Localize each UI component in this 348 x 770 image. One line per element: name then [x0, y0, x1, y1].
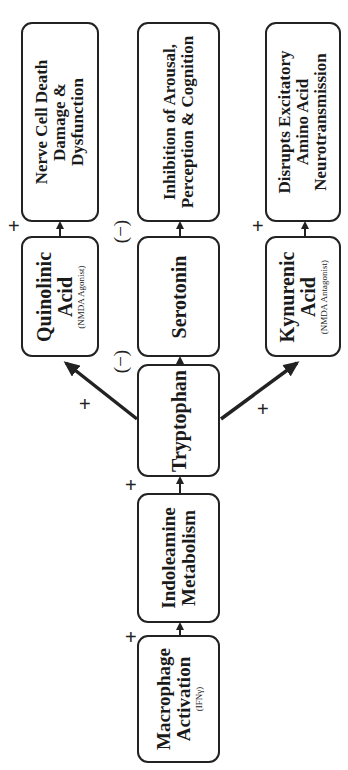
sign-plus-tryptophan-quinolinic: + [79, 394, 91, 414]
sign-plus-indoleamine-tryptophan: + [125, 475, 137, 495]
node-label: Indoleamine [159, 507, 179, 608]
node-macrophage-activation: Macrophage Activation (IFNγ) [137, 635, 220, 763]
node-label: Macrophage [153, 648, 173, 750]
sign-plus-tryptophan-kynurenic: + [257, 399, 269, 419]
node-label: Acid [298, 251, 319, 342]
node-indoleamine-metabolism: Indoleamine Metabolism [137, 493, 220, 623]
sign-plus-kynurenic-disrupts: + [252, 216, 264, 236]
node-label: Kynurenic [277, 251, 298, 342]
node-sublabel: (NMDA Agonist) [77, 251, 86, 341]
sign-plus-quinolinic-nervecell: + [8, 216, 20, 236]
node-label: Quinolinic [34, 251, 55, 341]
node-label: Damage & [51, 60, 69, 185]
node-label: Dysfunction [69, 60, 87, 185]
node-serotonin: Serotonin [137, 236, 220, 357]
sign-plus-macrophage-indoleamine: + [125, 627, 137, 647]
node-label: Perception & Cognition [179, 36, 197, 209]
node-sublabel: (IFNγ) [194, 648, 203, 750]
node-disrupts: Disrupts Excitatory Amino Acid Neurotran… [265, 22, 341, 222]
node-label: Acid [55, 251, 76, 341]
sign-minus-serotonin-inhibition: (−) [111, 220, 130, 243]
node-tryptophan: Tryptophan [137, 364, 220, 477]
sign-minus-tryptophan-serotonin: (−) [111, 350, 130, 373]
node-label: Nerve Cell Death [33, 60, 51, 185]
node-label: Disrupts Excitatory [276, 50, 294, 193]
node-label: Metabolism [179, 507, 199, 608]
node-nerve-cell-death: Nerve Cell Death Damage & Dysfunction [21, 22, 99, 222]
node-sublabel: (NMDA Antagonist) [320, 251, 329, 342]
node-label: Tryptophan [168, 370, 189, 472]
node-label: Amino Acid [294, 50, 312, 193]
node-quinolinic-acid: Quinolinic Acid (NMDA Agonist) [21, 236, 99, 357]
node-label: Inhibition of Arousal, [161, 36, 179, 209]
node-inhibition: Inhibition of Arousal, Perception & Cogn… [137, 22, 220, 222]
node-label: Activation [173, 648, 193, 750]
node-label: Serotonin [168, 255, 189, 338]
node-kynurenic-acid: Kynurenic Acid (NMDA Antagonist) [265, 236, 341, 357]
node-label: Neurotransmission [312, 50, 330, 193]
